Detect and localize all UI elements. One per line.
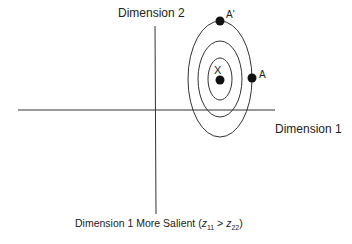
ideal-point-diagram: Dimension 2 Dimension 1 X A' A Dimension…: [0, 0, 352, 244]
vertical-axis: [155, 26, 156, 214]
caption-z1-sub: 11: [207, 224, 214, 231]
point-a-label: A: [259, 69, 266, 80]
caption-gt: >: [214, 217, 226, 229]
caption-suffix: ): [239, 217, 243, 229]
y-axis-label: Dimension 2: [118, 6, 185, 20]
point-a: [248, 74, 257, 83]
point-a-prime-label: A': [226, 9, 235, 20]
ideal-point-marker: [216, 76, 225, 85]
caption-prefix: Dimension 1 More Salient (: [75, 217, 202, 229]
ideal-point-label: X: [214, 64, 222, 76]
point-a-prime: [216, 17, 225, 26]
caption-z2-sub: 22: [231, 224, 239, 231]
x-axis-label: Dimension 1: [275, 122, 342, 136]
caption: Dimension 1 More Salient (z11 > z22): [75, 217, 243, 231]
